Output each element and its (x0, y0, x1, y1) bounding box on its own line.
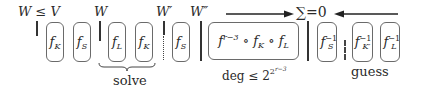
boundary-bar-w (99, 21, 101, 41)
box-f-s: fS (73, 22, 91, 62)
boundary-bar-sum (307, 21, 309, 61)
boundary-dotted-w-prime (163, 36, 164, 60)
solve-brace-icon (98, 62, 158, 72)
arrow-right-icon (226, 9, 294, 19)
box-f-k-solve: fK (135, 22, 153, 62)
box-f-k: fK (46, 22, 64, 62)
label-w-double-prime: W″ (190, 5, 208, 18)
guess-label: guess (351, 65, 389, 78)
solve-label: solve (113, 74, 147, 87)
arrow-left-icon (334, 9, 398, 19)
box-composite: fr−3 ∘ fK ∘ fL (208, 22, 299, 60)
box-f-l-solve: fL (108, 22, 126, 62)
boundary-bar-v (36, 21, 38, 36)
box-f-s-inverse: f−1S (317, 22, 337, 62)
box-f-l-inverse: f−1L (380, 22, 400, 62)
degree-bound: deg ≤ 22r−3 (222, 66, 287, 82)
label-w-le-v: W ≤ V (18, 5, 60, 18)
label-w-prime: W′ (156, 5, 172, 18)
label-w: W (94, 5, 107, 18)
box-f-s-2: fS (172, 22, 190, 62)
sum-zero-label: ∑=0 (296, 5, 327, 19)
boundary-bar-w-double-prime (200, 21, 202, 61)
boundary-bar-w-prime (163, 21, 165, 35)
boundary-dashed-guess (344, 40, 346, 60)
box-f-k-prime-inverse: f−1K′ (352, 22, 373, 62)
